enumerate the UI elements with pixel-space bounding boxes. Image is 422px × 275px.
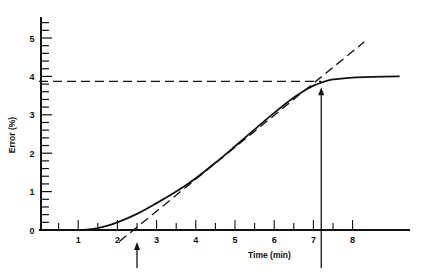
y-axis-label: Error (%) (7, 117, 17, 154)
x-tick-label: 6 (272, 235, 277, 245)
x-tick-label: 8 (350, 235, 355, 245)
tangent-line-line (119, 42, 364, 242)
x-tick-label: 1 (76, 235, 81, 245)
x-tick-label: 2 (115, 235, 120, 245)
x-axis-label: Time (min) (248, 250, 291, 260)
x-axis: 12345678 (41, 220, 410, 245)
y-tick-label: 1 (29, 187, 34, 197)
plot-lines (39, 42, 400, 242)
y-tick-label: 0 (29, 226, 34, 236)
y-tick-label: 3 (29, 110, 34, 120)
x-tick-label: 7 (311, 235, 316, 245)
y-axis: 012345 (29, 17, 52, 236)
x-tick-label: 4 (193, 235, 198, 245)
annotation-arrows (134, 87, 324, 268)
y-tick-label: 2 (29, 149, 34, 159)
error-vs-time-chart: 012345 12345678 Time (min) Error (%) (0, 0, 422, 275)
y-tick-label: 5 (29, 34, 34, 44)
x-tick-label: 5 (232, 235, 237, 245)
up-arrow-icon (134, 242, 140, 268)
x-tick-label: 3 (154, 235, 159, 245)
y-tick-label: 4 (29, 72, 34, 82)
error-curve-line (39, 76, 400, 230)
up-arrow-icon (318, 87, 324, 268)
